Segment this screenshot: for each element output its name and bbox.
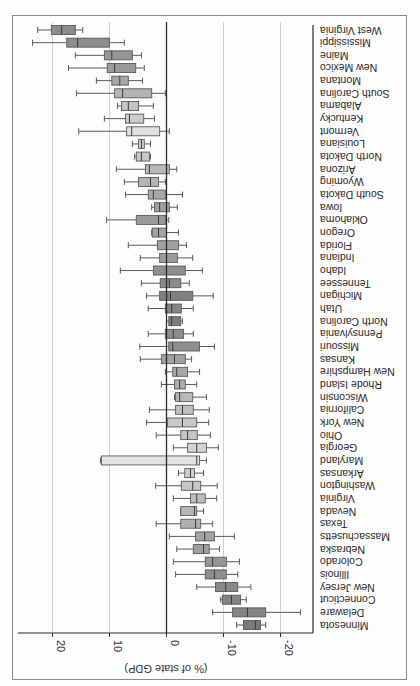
state-label: Connecticut bbox=[320, 594, 376, 606]
state-label: New Hampshire bbox=[320, 366, 395, 378]
iqr-box bbox=[233, 608, 266, 617]
state-labels: West VirginiaMississippiMaineNew MexicoM… bbox=[319, 25, 394, 632]
iqr-box bbox=[193, 545, 209, 554]
box-alabama bbox=[117, 101, 153, 110]
state-label: South Carolina bbox=[320, 88, 390, 100]
iqr-box bbox=[115, 89, 152, 98]
box-vermont bbox=[79, 127, 170, 136]
box-louisiana bbox=[132, 139, 150, 148]
state-label: Louisiana bbox=[320, 138, 365, 150]
box-tennessee bbox=[141, 279, 189, 288]
box-new-hampshire bbox=[165, 367, 199, 376]
iqr-box bbox=[148, 190, 165, 199]
box-kentucky bbox=[104, 114, 154, 123]
box-michigan bbox=[147, 291, 214, 300]
box-missouri bbox=[140, 342, 215, 351]
box-illinois bbox=[176, 570, 238, 579]
iqr-box bbox=[67, 38, 110, 47]
state-label: Iowa bbox=[320, 202, 342, 214]
box-washington bbox=[156, 481, 218, 490]
state-label: North Dakota bbox=[320, 151, 382, 163]
iqr-box bbox=[160, 279, 181, 288]
box-florida bbox=[128, 241, 186, 250]
iqr-box bbox=[107, 63, 136, 72]
box-virginia bbox=[173, 494, 216, 503]
x-tick-label: 10 bbox=[112, 640, 124, 652]
state-label: Maine bbox=[320, 50, 349, 62]
iqr-box bbox=[139, 177, 159, 186]
box-oklahoma bbox=[107, 215, 169, 224]
box-pennsylvania bbox=[148, 329, 193, 338]
state-label: Nevada bbox=[320, 506, 356, 518]
iqr-box bbox=[157, 241, 178, 250]
state-label: Wisconsin bbox=[320, 392, 368, 404]
state-label: Washington bbox=[320, 480, 375, 492]
state-label: Utah bbox=[320, 303, 342, 315]
iqr-box bbox=[181, 519, 201, 528]
x-axis-title: (% of state GDP) bbox=[124, 663, 207, 675]
iqr-box bbox=[121, 101, 138, 110]
state-label: Tennessee bbox=[320, 278, 371, 290]
state-label: Montana bbox=[320, 75, 361, 87]
box-nebraska bbox=[177, 545, 220, 554]
iqr-box bbox=[152, 228, 166, 237]
iqr-box bbox=[102, 456, 200, 465]
state-label: New Mexico bbox=[320, 62, 377, 74]
box-delaware bbox=[213, 608, 301, 617]
state-label: Minnesota bbox=[320, 620, 369, 632]
state-label: Virginia bbox=[320, 493, 355, 505]
box-arkansas bbox=[178, 469, 203, 478]
state-label: Colorado bbox=[320, 556, 363, 568]
state-label: Nebraska bbox=[320, 544, 365, 556]
box-georgia bbox=[173, 443, 218, 452]
box-ohio bbox=[156, 431, 210, 440]
iqr-box bbox=[205, 570, 226, 579]
tick-labels: 20100-10-20 bbox=[53, 633, 295, 656]
state-label: Ohio bbox=[320, 430, 342, 442]
iqr-box bbox=[181, 431, 198, 440]
iqr-box bbox=[160, 291, 193, 300]
x-tick-label: 0 bbox=[169, 640, 181, 646]
state-label: Wyoming bbox=[320, 176, 364, 188]
state-label: Alabama bbox=[320, 100, 362, 112]
iqr-box bbox=[190, 494, 205, 503]
iqr-box bbox=[165, 329, 183, 338]
iqr-box bbox=[176, 405, 194, 414]
state-label: Missouri bbox=[320, 341, 359, 353]
state-label: Arizona bbox=[320, 164, 356, 176]
box-new-jersey bbox=[197, 583, 251, 592]
iqr-box bbox=[205, 557, 226, 566]
box-north-dakota bbox=[135, 152, 151, 161]
state-label: North Carolina bbox=[320, 316, 388, 328]
box-connecticut bbox=[221, 595, 247, 604]
box-nevada bbox=[181, 507, 204, 516]
state-label: Oregon bbox=[320, 227, 355, 239]
box-oregon bbox=[152, 228, 179, 237]
iqr-box bbox=[169, 317, 181, 326]
iqr-box bbox=[125, 114, 143, 123]
box-wyoming bbox=[124, 177, 165, 186]
state-label: Pennsylvania bbox=[320, 328, 383, 340]
state-label: West Virginia bbox=[320, 25, 382, 37]
iqr-box bbox=[136, 152, 149, 161]
state-label: Oklahoma bbox=[320, 214, 368, 226]
box-mississippi bbox=[33, 38, 125, 47]
box-texas bbox=[156, 519, 212, 528]
state-label: Idaho bbox=[320, 265, 346, 277]
state-label: Rhode Island bbox=[320, 379, 382, 391]
box-california bbox=[149, 405, 209, 414]
state-label: Indiana bbox=[320, 252, 355, 264]
box-colorado bbox=[173, 557, 239, 566]
state-label: Texas bbox=[320, 518, 347, 530]
axes bbox=[18, 22, 313, 633]
state-label: California bbox=[320, 404, 365, 416]
state-label: Mississippi bbox=[320, 37, 371, 49]
box-wisconsin bbox=[174, 393, 206, 402]
state-label: Maryland bbox=[320, 455, 363, 467]
iqr-box bbox=[243, 621, 260, 630]
state-label: Arkansas bbox=[320, 468, 364, 480]
x-tick-label: -10 bbox=[226, 640, 238, 656]
x-tick-label: -20 bbox=[283, 640, 295, 656]
box-montana bbox=[96, 76, 142, 85]
chart-figure: West VirginiaMississippiMaineNew MexicoM… bbox=[0, 0, 420, 686]
